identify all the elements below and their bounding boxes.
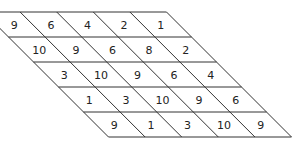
grid-cell-value: 1 <box>157 19 164 32</box>
grid-cell-value: 4 <box>84 19 91 32</box>
grid-cell-value: 3 <box>122 94 129 107</box>
grid-cell-value: 1 <box>147 119 154 132</box>
grid-cell-value: 8 <box>146 44 153 57</box>
grid-cell-value: 9 <box>111 119 118 132</box>
grid-cell-value: 9 <box>134 69 141 82</box>
grid-cell-value: 9 <box>196 94 203 107</box>
grid-cell-value: 3 <box>184 119 191 132</box>
grid-cell-value: 3 <box>61 69 68 82</box>
grid-cell-value: 9 <box>11 19 18 32</box>
grid-cell-value: 6 <box>232 94 239 107</box>
grid-cell-value: 4 <box>207 69 214 82</box>
grid-cell-value: 10 <box>217 119 231 132</box>
grid-cell-value: 9 <box>257 119 264 132</box>
grid-cell-value: 2 <box>182 44 189 57</box>
grid-cell-value: 6 <box>47 19 54 32</box>
grid-cell-value: 10 <box>156 94 170 107</box>
grid-cell-value: 10 <box>94 69 108 82</box>
grid-cell-value: 6 <box>171 69 178 82</box>
grid-cell-value: 10 <box>32 44 46 57</box>
grid-cell-value: 2 <box>121 19 128 32</box>
grid-cell-value: 1 <box>86 94 93 107</box>
grid-cell-value: 6 <box>109 44 116 57</box>
number-grid: 96421109682310964131096913109 <box>0 0 294 143</box>
grid-cell-value: 9 <box>72 44 79 57</box>
